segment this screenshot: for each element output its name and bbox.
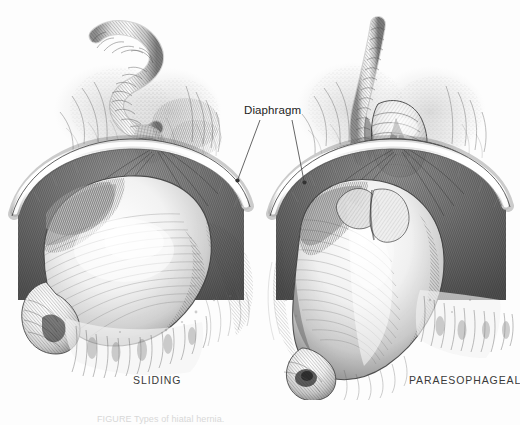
figure-illustration: Diaphragm SLIDING PARAESOPHAGEAL FIGURE … xyxy=(0,0,520,425)
label-panel-paraesophageal: PARAESOPHAGEAL xyxy=(409,374,520,386)
anatomical-illustration xyxy=(0,0,520,425)
figure-caption: FIGURE Types of hiatal hernia. xyxy=(97,414,224,424)
label-panel-sliding: SLIDING xyxy=(133,374,181,386)
leader-dot-right xyxy=(302,180,306,184)
leader-dot-left xyxy=(235,178,239,182)
label-diaphragm: Diaphragm xyxy=(244,104,301,116)
